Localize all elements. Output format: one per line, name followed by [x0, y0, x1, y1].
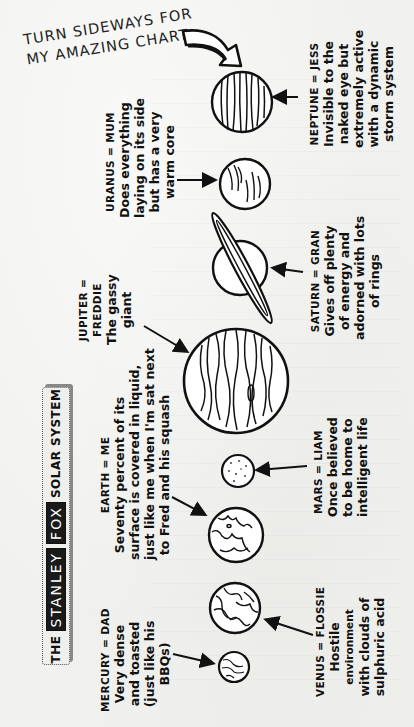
- neptune-icon: [212, 72, 298, 132]
- caption-line: but has a very: [147, 106, 162, 218]
- neptune-caption: NEPTUNE = JESS Invisible to the naked ey…: [307, 40, 396, 148]
- uranus-caption: URANUS = MUM Does everything laying on i…: [103, 106, 177, 218]
- saturn-caption: SATURN = GRAN Gives off plenty of energy…: [308, 222, 382, 340]
- mercury-label: MERCURY = DAD: [98, 616, 112, 712]
- jupiter-caption: JUPITER = FREDDIE The gassy giant: [76, 275, 134, 345]
- mercury-icon: [173, 652, 249, 682]
- caption-line: to be home to: [340, 427, 355, 517]
- jupiter-person: FREDDIE: [90, 275, 104, 345]
- caption-line: sulphuric acid: [372, 597, 387, 697]
- caption-line: with clouds of: [357, 597, 372, 697]
- caption-line: with a dynamic: [366, 40, 381, 148]
- caption-line: naked eye but: [336, 40, 351, 148]
- saturn-icon: [207, 210, 303, 326]
- title-name-last: FOX: [46, 502, 66, 544]
- title-name-first: STANLEY: [46, 548, 66, 632]
- caption-line: to Fred and his squash: [157, 390, 172, 560]
- caption-line: Seventy percent of its: [112, 390, 127, 560]
- caption-line: Invisible to the: [321, 40, 336, 148]
- earth-caption: EARTH = ME Seventy percent of its surfac…: [98, 390, 172, 560]
- uranus-label: URANUS = MUM: [103, 106, 117, 218]
- caption-line: storm system: [381, 40, 396, 148]
- title-banner: THE STANLEY FOX SOLAR SYSTEM: [42, 387, 70, 665]
- title-prefix: THE: [49, 635, 63, 663]
- caption-line: giant: [119, 275, 134, 345]
- caption-line: The gassy: [104, 275, 119, 345]
- caption-line: Does everything: [117, 106, 132, 218]
- caption-line: warm core: [162, 106, 177, 218]
- caption-line: Gives off plenty: [322, 222, 337, 340]
- caption-line: environment: [342, 597, 357, 697]
- title-suffix: SOLAR SYSTEM: [49, 389, 63, 499]
- mars-label: MARS = LIAM: [311, 427, 325, 517]
- saturn-label: SATURN = GRAN: [308, 222, 322, 340]
- caption-line: extremely active: [351, 40, 366, 148]
- mars-icon: [222, 455, 307, 487]
- venus-icon: [210, 583, 313, 635]
- caption-line: adorned with lots: [352, 222, 367, 340]
- caption-line: Hostile: [327, 597, 342, 697]
- caption-line: Once believed: [325, 427, 340, 517]
- caption-line: of energy and: [337, 222, 352, 340]
- caption-line: laying on its side: [132, 106, 147, 218]
- caption-line: surface is covered in liquid,: [127, 390, 142, 560]
- uranus-icon: [177, 159, 270, 209]
- caption-line: Very dense: [112, 616, 127, 712]
- mercury-caption: MERCURY = DAD Very dense and toasted (ju…: [98, 616, 172, 712]
- caption-line: BBQs): [157, 616, 172, 712]
- neptune-label: NEPTUNE = JESS: [307, 40, 321, 148]
- caption-line: (just like his: [142, 616, 157, 712]
- caption-line: and toasted: [127, 616, 142, 712]
- caption-line: of rings: [367, 222, 382, 340]
- jupiter-label: JUPITER =: [76, 275, 90, 345]
- caption-line: intelligent life: [355, 427, 370, 517]
- venus-caption: VENUS = FLOSSIE Hostile environment with…: [313, 597, 387, 697]
- mars-caption: MARS = LIAM Once believed to be home to …: [311, 427, 370, 517]
- caption-line: just like me when I'm sat next: [142, 390, 157, 560]
- venus-label: VENUS = FLOSSIE: [313, 597, 327, 697]
- earth-label: EARTH = ME: [98, 390, 112, 560]
- curved-arrow-icon: [183, 30, 241, 66]
- earth-icon: [172, 497, 263, 562]
